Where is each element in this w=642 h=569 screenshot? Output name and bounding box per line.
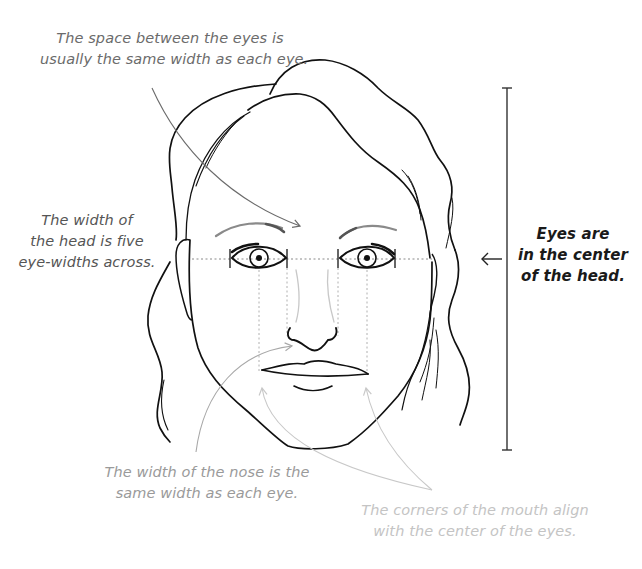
caption-mouth-corners: The corners of the mouth align with the …	[350, 500, 600, 542]
nose	[288, 270, 337, 350]
eye-center-arrow	[482, 253, 502, 265]
caption-eye-spacing: The space between the eyes is usually th…	[40, 28, 300, 70]
caption-eye-center: Eyes are in the center of the head.	[505, 224, 641, 287]
nose-width-arrow	[196, 346, 292, 452]
caption-line: same width as each eye.	[92, 483, 322, 504]
caption-nose-width: The width of the nose is the same width …	[92, 462, 322, 504]
caption-head-width: The width of the head is five eye-widths…	[12, 210, 162, 273]
caption-line: of the head.	[505, 266, 641, 287]
caption-line: The width of	[12, 210, 162, 231]
mouth-corner-arrow-right	[366, 388, 432, 490]
right-eye	[340, 244, 394, 268]
eyebrows	[216, 223, 396, 238]
caption-line: The corners of the mouth align	[350, 500, 600, 521]
mouth	[262, 361, 368, 391]
hair-outline	[148, 60, 470, 442]
eye-width-guide	[192, 249, 432, 372]
caption-line: The space between the eyes is	[40, 28, 300, 49]
caption-line: Eyes are	[505, 224, 641, 245]
face-outline	[189, 240, 432, 449]
caption-line: eye-widths across.	[12, 252, 162, 273]
caption-line: the head is five	[12, 231, 162, 252]
caption-line: The width of the nose is the	[92, 462, 322, 483]
left-eye	[232, 244, 286, 268]
caption-line: with the center of the eyes.	[350, 521, 600, 542]
caption-line: in the center	[505, 245, 641, 266]
caption-line: usually the same width as each eye.	[40, 49, 300, 70]
